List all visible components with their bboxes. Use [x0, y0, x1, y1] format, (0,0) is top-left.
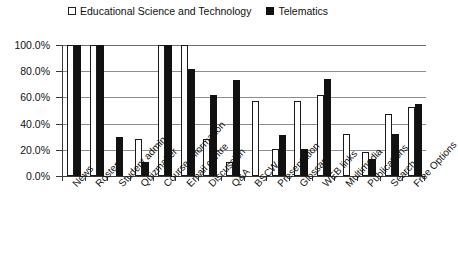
y-axis-label-0: 0.0%	[26, 170, 50, 182]
y-axis-label-20: 20.0%	[20, 144, 50, 156]
y-axis: 100.0% 80.0% 60.0% 40.0% 20.0% 0.0%	[0, 38, 58, 183]
bar-group	[267, 45, 290, 176]
bar-est	[67, 45, 74, 176]
legend-label-series-2: Telematics	[278, 6, 328, 17]
y-axis-label-60: 60.0%	[20, 91, 50, 103]
bar-est	[90, 45, 97, 176]
bar-group	[86, 45, 109, 176]
filled-square-icon	[266, 7, 274, 15]
legend-label-series-1: Educational Science and Technology	[80, 6, 251, 17]
chart-legend: Educational Science and Technology Telem…	[68, 6, 328, 17]
bar-tel	[97, 45, 104, 176]
bar-group	[63, 45, 86, 176]
y-axis-label-40: 40.0%	[20, 118, 50, 130]
legend-item-educational-science-and-technology: Educational Science and Technology	[68, 6, 251, 17]
bar-group	[245, 45, 268, 176]
bar-tel	[74, 45, 81, 176]
y-axis-label-100: 100.0%	[14, 39, 50, 51]
x-axis-labels: NewsRosterStudent adminQuizmakerCourse I…	[62, 182, 425, 278]
bar-group	[108, 45, 131, 176]
legend-item-telematics: Telematics	[266, 6, 328, 17]
bar-est	[252, 101, 259, 176]
hollow-square-icon	[68, 7, 76, 15]
y-axis-label-80: 80.0%	[20, 65, 50, 77]
bar-group	[403, 45, 426, 176]
